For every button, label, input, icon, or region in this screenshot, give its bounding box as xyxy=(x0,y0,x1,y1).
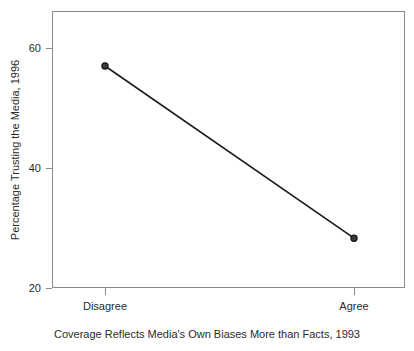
y-tick-label-60: 60 xyxy=(29,42,41,54)
x-tick-label-disagree: Disagree xyxy=(83,300,127,312)
plot-area-background xyxy=(52,11,405,288)
y-axis-ticks xyxy=(46,49,52,289)
x-axis-title: Coverage Reflects Media's Own Biases Mor… xyxy=(54,328,360,340)
y-axis-title: Percentage Trusting the Media, 1996 xyxy=(9,60,21,240)
line-chart-canvas: 60 40 20 Percentage Trusting the Media, … xyxy=(0,0,414,351)
y-tick-label-40: 40 xyxy=(29,162,41,174)
x-axis-ticks xyxy=(106,288,355,295)
data-point-disagree[interactable] xyxy=(102,63,108,69)
x-tick-label-agree: Agree xyxy=(339,300,368,312)
chart-figure: 60 40 20 Percentage Trusting the Media, … xyxy=(0,0,414,351)
data-point-agree[interactable] xyxy=(351,235,357,241)
y-tick-label-20: 20 xyxy=(29,282,41,294)
